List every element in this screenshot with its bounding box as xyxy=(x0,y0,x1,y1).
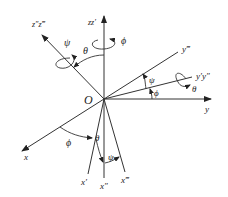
x-label: x xyxy=(23,152,28,162)
psi-top-label: ψ xyxy=(64,37,71,48)
theta-right-label: θ xyxy=(192,84,197,94)
y-label: y xyxy=(204,104,209,114)
zz-prime-label: zz′ xyxy=(87,18,96,27)
y-prime-double-prime-label: y′y″ xyxy=(195,71,210,81)
y-triple-prime-axis xyxy=(104,52,178,99)
phi-bottom-label: ϕ xyxy=(66,137,71,148)
y-triple-prime-label: y‴ xyxy=(181,44,191,54)
theta-top-label: θ xyxy=(83,45,88,56)
psi-rotation-loop-icon xyxy=(56,55,74,68)
x-prime-label: x′ xyxy=(80,177,88,187)
z-double-triple-prime-label: z″z‴ xyxy=(31,20,46,29)
z-double-triple-prime-axis xyxy=(42,35,104,99)
phi-arc-right xyxy=(150,89,152,99)
axes xyxy=(22,16,211,178)
phi-right-label: ϕ xyxy=(154,88,159,98)
x-double-prime-label: x″ xyxy=(99,181,108,191)
euler-angle-diagram: O zz′ z″z‴ y y′y″ y‴ x x′ x″ x‴ ψ θ ϕ ψ … xyxy=(0,0,228,197)
x-triple-prime-label: x‴ xyxy=(120,175,130,185)
theta-arc-top xyxy=(74,55,104,67)
y-prime-double-prime-axis xyxy=(104,77,192,99)
origin-label: O xyxy=(84,93,93,107)
theta-bottom-label: θ xyxy=(95,133,100,143)
phi-arc-bottom xyxy=(60,127,92,138)
phi-top-label: ϕ xyxy=(121,35,126,46)
theta-rotation-loop-icon xyxy=(176,73,190,86)
psi-arc-right xyxy=(143,74,146,89)
psi-right-label: ψ xyxy=(149,75,155,85)
diagram-svg: O zz′ z″z‴ y y′y″ y‴ x x′ x″ x‴ ψ θ ϕ ψ … xyxy=(0,0,228,197)
psi-bottom-label: ψ xyxy=(108,152,114,162)
